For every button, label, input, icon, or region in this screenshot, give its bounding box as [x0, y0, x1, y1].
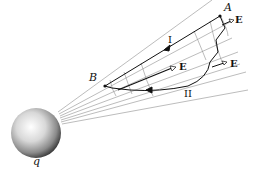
field-lines — [58, 0, 248, 124]
equipotential-arcs — [110, 15, 228, 96]
label-e-top: E — [235, 15, 243, 25]
point-a — [218, 14, 221, 17]
label-a: A — [224, 2, 232, 13]
charged-sphere — [11, 108, 61, 158]
field-vector-lower — [212, 61, 227, 67]
path-2 — [105, 16, 225, 93]
label-charge: q — [33, 156, 40, 167]
point-b — [103, 84, 106, 87]
label-b: B — [89, 72, 97, 83]
label-e-lower: E — [230, 59, 238, 69]
diagram-canvas — [0, 0, 258, 177]
label-path-1: I — [168, 35, 172, 45]
label-e-middle: E — [179, 62, 187, 72]
label-path-2: II — [184, 89, 192, 99]
